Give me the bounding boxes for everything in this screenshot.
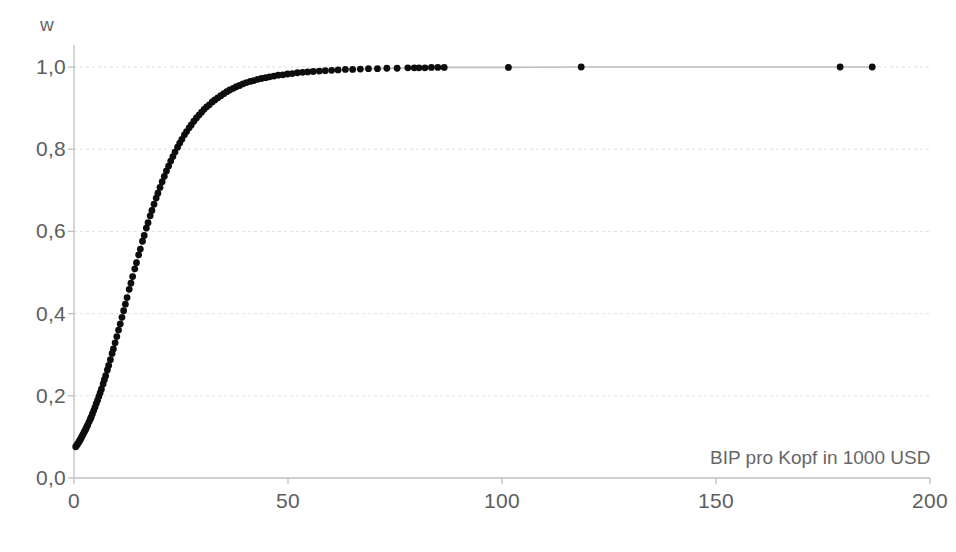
data-point [141,232,148,239]
data-point [404,64,411,71]
data-point [316,68,323,75]
data-point [322,67,329,74]
data-point [869,64,876,71]
data-point [145,219,152,226]
data-point [113,333,120,340]
data-point [422,64,429,71]
data-points [72,64,875,451]
data-point [105,362,112,369]
data-point [416,64,423,71]
data-point [126,286,133,293]
data-point [837,64,844,71]
data-point [107,356,114,363]
data-point [365,65,372,72]
data-point [131,265,138,272]
data-point [428,64,435,71]
data-point [124,294,131,301]
data-point [115,327,122,334]
data-point [357,66,364,73]
data-point [374,65,381,72]
data-point [149,207,156,214]
data-point [394,65,401,72]
data-point [122,301,129,308]
data-point [151,201,158,208]
data-point [310,68,317,75]
data-point [110,346,117,353]
data-point [135,251,142,258]
data-point [578,64,585,71]
data-point [335,66,342,73]
plot-area [0,0,956,552]
data-point [133,259,140,266]
data-point [505,64,512,71]
data-point [102,372,109,379]
data-point [129,273,136,280]
data-point [119,314,126,321]
data-point [120,307,127,314]
chart-container: w BIP pro Kopf in 1000 USD 0,00,20,40,60… [0,0,956,552]
data-point [117,320,124,327]
data-point [342,66,349,73]
data-point [328,67,335,74]
data-point [349,66,356,73]
data-point [128,280,135,287]
data-point [434,64,441,71]
data-point [137,246,144,253]
data-point [139,238,146,245]
data-point [112,339,119,346]
data-point [383,65,390,72]
data-point [441,64,448,71]
